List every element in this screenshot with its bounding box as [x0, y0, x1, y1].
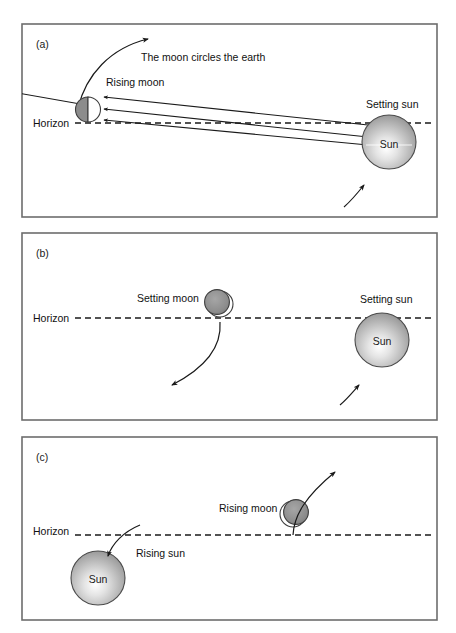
rising-moon-label-c: Rising moon [219, 502, 278, 514]
panel-c: (c) Sun Horizon Rising sun Rising moon [22, 437, 437, 620]
setting-sun-b: Sun [355, 313, 409, 367]
sun-body-label-b: Sun [373, 335, 392, 347]
rising-moon-label-a: Rising moon [106, 76, 165, 88]
panel-b: (b) Sun Horizon Setting moon Setting sun [22, 233, 437, 420]
rising-sun-c: Sun [71, 551, 125, 605]
horizon-label-a: Horizon [33, 117, 69, 129]
horizon-label-b: Horizon [33, 312, 69, 324]
setting-moon-label-b: Setting moon [137, 292, 199, 304]
rising-sun-label-c: Rising sun [136, 547, 185, 559]
sun-body-label-a: Sun [380, 138, 399, 150]
rising-moon-a [76, 97, 101, 122]
moon-dark-disc-b [205, 290, 230, 315]
panel-b-tag: (b) [36, 247, 49, 259]
astronomy-diagram: (a) Sun [0, 0, 456, 633]
sun-body-label-c: Sun [89, 573, 108, 585]
horizon-label-c: Horizon [33, 525, 69, 537]
figure-root: (a) Sun [0, 0, 456, 633]
panel-c-tag: (c) [36, 451, 48, 463]
orbit-note-label-a: The moon circles the earth [141, 51, 265, 63]
setting-sun-a: Sun [362, 115, 416, 169]
panel-a: (a) Sun [18, 24, 437, 217]
setting-sun-label-a: Setting sun [366, 98, 419, 110]
setting-sun-label-b: Setting sun [360, 293, 413, 305]
panel-a-tag: (a) [36, 38, 49, 50]
